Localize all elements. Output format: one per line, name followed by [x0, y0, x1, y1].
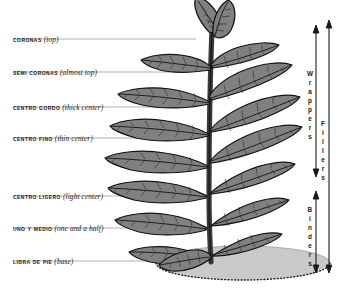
label-centro-gordo-term: Centro Gordo: [13, 104, 60, 111]
label-semi-coronas-gloss: (almost top): [60, 68, 97, 77]
bracket-arrow-fillers: [326, 20, 332, 273]
label-uno-y-medio-term: Uno y Medio: [13, 225, 52, 232]
leaf-centro-gordo-left: [118, 88, 210, 108]
label-centro-gordo: Centro Gordo(thick center): [13, 97, 103, 113]
leaf-uno-y-medio-left: [115, 213, 207, 235]
label-centro-ligero-term: Centro Ligero: [13, 193, 61, 200]
label-libra-de-pie: Libra de Pie(base): [13, 251, 73, 267]
bracket-label-wrappers: Wrappers: [306, 70, 312, 142]
label-semi-coronas: Semi Coronas(almost top): [13, 62, 97, 78]
leaf-centro-gordo-right: [209, 63, 292, 100]
label-coronas-term: Coronas: [13, 36, 42, 43]
label-libra-de-pie-term: Libra de Pie: [13, 258, 52, 265]
plant-leaves: [105, 0, 302, 271]
leaf-uno-y-medio-right: [211, 198, 289, 226]
label-coronas-gloss: (top): [44, 35, 59, 44]
label-coronas: Coronas(top): [13, 29, 59, 45]
bracket-label-fillers: Fillers: [319, 120, 325, 183]
label-centro-ligero: Centro Ligero(light center): [13, 186, 103, 202]
leaf-corona-right: [213, 0, 235, 38]
bracket-label-binders: Binders: [306, 206, 312, 269]
label-uno-y-medio-gloss: (one and a half): [54, 224, 103, 233]
bracket-arrow-wrappers: [313, 25, 319, 177]
label-uno-y-medio: Uno y Medio(one and a half): [13, 218, 103, 234]
label-centro-fino-term: Centro Fino: [13, 135, 53, 142]
leaf-centro-ligero-right: [210, 162, 295, 194]
label-centro-fino: Centro Fino(thin center): [13, 128, 93, 144]
leaf-centro-ligero-left: [108, 181, 207, 203]
leaf-semi-corona-left: [141, 54, 211, 72]
label-centro-ligero-gloss: (light center): [63, 192, 103, 201]
label-libra-de-pie-gloss: (base): [54, 257, 73, 266]
leaf-mid-right: [210, 125, 302, 163]
label-semi-coronas-term: Semi Coronas: [13, 69, 58, 76]
leaf-mid-left: [105, 151, 208, 173]
label-centro-gordo-gloss: (thick center): [62, 103, 103, 112]
label-centro-fino-gloss: (thin center): [55, 134, 93, 143]
